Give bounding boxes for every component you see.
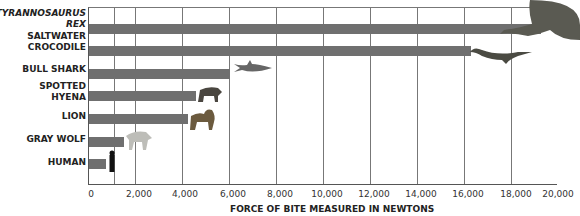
shark-icon (234, 60, 274, 76)
bar-crocodile (89, 46, 471, 56)
x-tick: 0 (88, 189, 94, 199)
x-tick: 20,000 (542, 189, 574, 199)
crocodile-icon (468, 42, 538, 70)
category-label-hyena: SPOTTEDHYENA (39, 81, 86, 103)
bar-bull-shark (89, 69, 230, 79)
gridline (323, 8, 324, 184)
gray-wolf-icon (124, 128, 154, 152)
bite-force-chart: TYRANNOSAURUSREX SALTWATERCROCODILE BULL… (0, 0, 580, 216)
gridline (417, 8, 418, 184)
category-label-gray-wolf: GRAY WOLF (26, 134, 86, 145)
x-tick: 16,000 (452, 189, 484, 199)
category-label-lion: LION (62, 111, 86, 122)
human-icon (108, 150, 116, 172)
trex-icon (470, 0, 580, 40)
x-tick: 14,000 (405, 189, 437, 199)
x-tick: 10,000 (311, 189, 343, 199)
lion-icon (188, 106, 216, 132)
category-label-bull-shark: BULL SHARK (22, 64, 86, 75)
x-tick: 12,000 (358, 189, 390, 199)
x-tick: 6,000 (220, 189, 246, 199)
gridline (229, 8, 230, 184)
x-tick: 2,000 (126, 189, 152, 199)
category-label-human: HUMAN (48, 157, 86, 168)
x-tick: 8,000 (267, 189, 293, 199)
x-tick: 4,000 (172, 189, 198, 199)
bar-lion (89, 114, 188, 124)
bar-hyena (89, 91, 196, 101)
hyena-icon (196, 84, 224, 104)
gridline (464, 8, 465, 184)
gridline (276, 8, 277, 184)
bar-gray-wolf (89, 137, 124, 147)
category-label-trex: TYRANNOSAURUSREX (0, 8, 86, 30)
category-label-crocodile: SALTWATERCROCODILE (27, 31, 86, 53)
x-tick: 18,000 (500, 189, 532, 199)
gridline (370, 8, 371, 184)
bar-human (89, 159, 106, 169)
x-axis-title: FORCE OF BITE MEASURED IN NEWTONS (230, 204, 434, 214)
